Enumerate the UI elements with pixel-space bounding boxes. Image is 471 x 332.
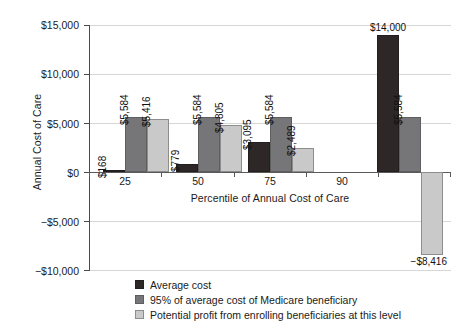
bar-chart-figure: Annual Cost of Care $15,000 $10,000 $5,0… — [0, 0, 471, 332]
y-tick-mark-15000 — [84, 25, 89, 26]
x-tick-label-50: 50 — [178, 175, 218, 187]
bar-value-label-95pct-90: $5,584 — [393, 94, 404, 125]
x-tick-mark-1 — [161, 172, 162, 177]
bar-95pct-90 — [399, 117, 421, 172]
x-tick-label-25: 25 — [105, 175, 145, 187]
legend-item-95-percent-medicare: 95% of average cost of Medicare benefici… — [135, 292, 401, 307]
y-tick-label-10000: $10,000 — [41, 68, 79, 80]
bar-value-label-95pct-25: $5,584 — [119, 94, 130, 125]
gridline-neg5000 — [89, 221, 451, 222]
bar-profit-90 — [421, 172, 443, 255]
x-tick-label-75: 75 — [250, 175, 290, 187]
x-tick-mark-5 — [450, 172, 451, 177]
legend-item-potential-profit: Potential profit from enrolling benefici… — [135, 307, 401, 322]
bar-value-label-profit-50: $4,805 — [214, 102, 225, 133]
x-tick-label-90: 90 — [322, 175, 362, 187]
y-tick-label-5000: $5,000 — [47, 118, 79, 130]
x-tick-mark-2 — [234, 172, 235, 177]
plot-area: 25 50 75 90 $168 $5,584 $5,416 $779 $5,5… — [89, 25, 451, 271]
y-tick-mark-neg10000 — [84, 270, 89, 271]
y-tick-label-neg5000: −$5,000 — [41, 216, 79, 228]
legend-swatch-icon-potential-profit — [135, 310, 144, 319]
legend-swatch-icon-average-cost — [135, 280, 144, 289]
gridline-neg10000 — [89, 270, 451, 271]
bar-value-label-avg-cost-50: $779 — [170, 150, 181, 172]
bar-value-label-profit-90: −$8,416 — [387, 256, 447, 267]
y-tick-mark-neg5000 — [84, 221, 89, 222]
legend-label-95-percent-medicare: 95% of average cost of Medicare benefici… — [150, 294, 357, 306]
y-tick-mark-5000 — [84, 123, 89, 124]
x-tick-mark-4 — [378, 172, 379, 177]
y-tick-label-0: $0 — [67, 167, 79, 179]
x-tick-mark-3 — [306, 172, 307, 177]
bar-value-label-avg-cost-90: $14,000 — [360, 22, 416, 33]
x-tick-mark-0 — [89, 172, 90, 177]
chart-legend: Average cost 95% of average cost of Medi… — [135, 277, 401, 322]
bar-value-label-95pct-50: $5,584 — [192, 94, 203, 125]
legend-label-potential-profit: Potential profit from enrolling benefici… — [150, 309, 401, 321]
legend-item-average-cost: Average cost — [135, 277, 401, 292]
zero-axis-line — [89, 172, 451, 173]
y-tick-label-15000: $15,000 — [41, 19, 79, 31]
y-tick-mark-10000 — [84, 74, 89, 75]
y-axis-spine — [89, 25, 90, 271]
bar-value-label-95pct-75: $5,584 — [264, 94, 275, 125]
bar-value-label-profit-75: $2,489 — [286, 125, 297, 156]
y-tick-label-neg10000: −$10,000 — [35, 265, 79, 277]
bar-value-label-avg-cost-25: $168 — [97, 156, 108, 178]
bar-value-label-profit-25: $5,416 — [141, 96, 152, 127]
legend-swatch-icon-95-percent-medicare — [135, 295, 144, 304]
legend-label-average-cost: Average cost — [150, 279, 211, 291]
bar-value-label-avg-cost-75: $3,095 — [242, 119, 253, 150]
